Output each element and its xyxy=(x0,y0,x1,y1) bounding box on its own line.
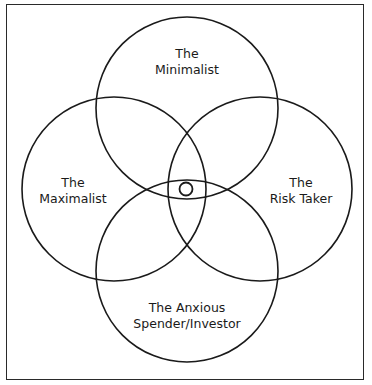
anxious-spender-label: The Anxious Spender/Investor xyxy=(133,300,240,332)
minimalist-label: The Minimalist xyxy=(155,46,219,78)
venn-diagram: The Minimalist The Maximalist The Risk T… xyxy=(0,0,372,385)
minimalist-label-line1: The xyxy=(155,46,219,62)
maximalist-label-line2: Maximalist xyxy=(39,191,107,207)
risk-taker-label: The Risk Taker xyxy=(270,175,333,207)
center-overlap-marker xyxy=(180,183,193,196)
maximalist-label: The Maximalist xyxy=(39,175,107,207)
risk-taker-label-line2: Risk Taker xyxy=(270,191,333,207)
anxious-spender-circle xyxy=(96,180,278,362)
maximalist-label-line1: The xyxy=(39,175,107,191)
anxious-spender-label-line2: Spender/Investor xyxy=(133,316,240,332)
minimalist-circle xyxy=(96,17,278,199)
minimalist-label-line2: Minimalist xyxy=(155,62,219,78)
risk-taker-label-line1: The xyxy=(270,175,333,191)
anxious-spender-label-line1: The Anxious xyxy=(133,300,240,316)
